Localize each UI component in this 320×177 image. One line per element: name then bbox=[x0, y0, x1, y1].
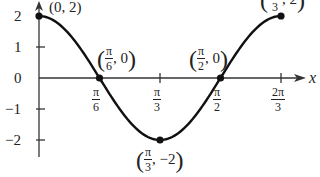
annotation-max-left: (0, 2) bbox=[49, 0, 82, 15]
x-axis-label: x bbox=[309, 70, 316, 86]
x-tick-label: 2π3 bbox=[271, 86, 285, 113]
annotation-min: (π3, −2) bbox=[136, 146, 184, 173]
annotation-max-right: (2π3, 2) bbox=[260, 0, 305, 13]
x-tick-num: π bbox=[92, 86, 100, 100]
annot-rest: , 2 bbox=[282, 0, 297, 7]
y-tick-label: −2 bbox=[5, 133, 21, 148]
x-tick-label: π6 bbox=[92, 86, 100, 113]
annot-num: π bbox=[105, 45, 113, 59]
annotation-zero-pi2: (π2, 0) bbox=[189, 45, 228, 72]
y-tick-label: 0 bbox=[14, 71, 22, 86]
annot-num: π bbox=[144, 146, 152, 160]
x-tick-den: 3 bbox=[154, 100, 160, 113]
x-tick-den: 6 bbox=[93, 100, 99, 113]
x-tick-num: π bbox=[153, 86, 161, 100]
annot-den: 2 bbox=[198, 59, 204, 72]
x-tick-den: 3 bbox=[275, 100, 281, 113]
y-tick-label: −1 bbox=[5, 102, 21, 117]
y-ticks bbox=[36, 47, 45, 140]
annot-den: 3 bbox=[272, 0, 278, 13]
y-tick-label: 2 bbox=[14, 9, 22, 24]
annot-rest: , 0 bbox=[113, 51, 128, 66]
annot-rest: , −2 bbox=[152, 152, 175, 167]
annotation-zero-pi6: (π6, 0) bbox=[97, 45, 136, 72]
annot-den: 6 bbox=[106, 59, 112, 72]
x-tick-num: π bbox=[213, 86, 221, 100]
x-tick-label: π3 bbox=[153, 86, 161, 113]
annot-den: 3 bbox=[145, 160, 151, 173]
x-tick-label: π2 bbox=[213, 86, 221, 113]
annot-num: π bbox=[197, 45, 205, 59]
x-tick-den: 2 bbox=[214, 100, 220, 113]
x-tick-num: 2π bbox=[271, 86, 285, 100]
y-tick-label: 1 bbox=[14, 40, 22, 55]
annot-rest: , 0 bbox=[205, 51, 220, 66]
